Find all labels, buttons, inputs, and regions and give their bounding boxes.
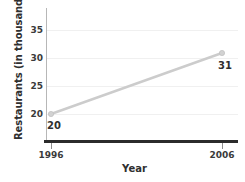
data-point-1996	[48, 111, 53, 116]
data-label-1996: 20	[34, 120, 74, 131]
data-series-layer	[0, 0, 245, 182]
data-point-2006	[219, 50, 224, 55]
line-chart: Restaurants (in thousands) 35 30 25 20 1…	[0, 0, 245, 182]
data-label-2006: 31	[205, 60, 245, 71]
series-line	[51, 53, 222, 114]
x-axis-title: Year	[47, 163, 222, 174]
